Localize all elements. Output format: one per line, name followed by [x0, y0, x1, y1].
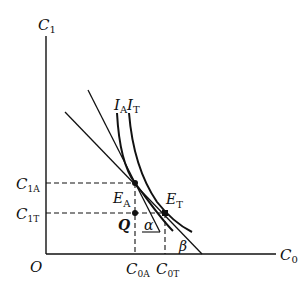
- it-label: IT: [126, 96, 140, 115]
- c0t-label: C0T: [156, 260, 179, 279]
- indifference-curve-it: [129, 113, 192, 232]
- beta-label: β: [178, 238, 187, 254]
- point-ea: [132, 180, 138, 186]
- c1a-label: C1A: [16, 175, 40, 194]
- consumption-diagram: C1 C0 O IA IT EA ET Q C1A C1T C0A C0T α …: [0, 0, 308, 291]
- x-axis-label: C0: [280, 246, 298, 265]
- c0a-label: C0A: [126, 260, 150, 279]
- diagram-canvas: C1 C0 O IA IT EA ET Q C1A C1T C0A C0T α …: [0, 0, 308, 291]
- q-label: Q: [118, 217, 130, 233]
- y-axis-label: C1: [38, 16, 56, 35]
- et-label: ET: [165, 191, 183, 210]
- ia-label: IA: [113, 96, 128, 115]
- alpha-label: α: [144, 217, 154, 233]
- ea-label: EA: [112, 190, 131, 209]
- origin-label: O: [30, 258, 42, 276]
- point-q: [132, 210, 138, 216]
- point-et: [162, 210, 168, 216]
- c1t-label: C1T: [16, 205, 39, 224]
